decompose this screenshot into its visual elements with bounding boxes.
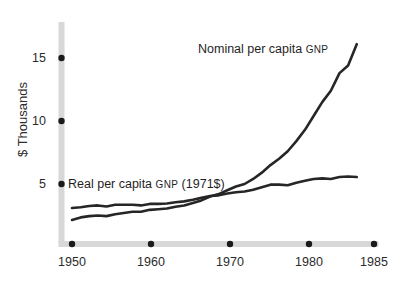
- annotation-nominal-smallcaps: GNP: [306, 44, 329, 55]
- gnp-line-chart: 15 10 5 $ Thousands 1950 1960 1970 1980 …: [0, 0, 406, 284]
- x-tick-label-1950: 1950: [47, 255, 97, 269]
- series-line-nominal-per-capita-gnp: [72, 44, 357, 220]
- annotation-real-prefix: Real per capita: [68, 177, 156, 191]
- annotation-real-smallcaps: GNP: [156, 179, 179, 190]
- x-tick-dot-1950: [69, 241, 75, 247]
- y-tick-dot-10: [58, 118, 64, 124]
- x-axis-band: [59, 241, 379, 247]
- y-tick-dot-5: [58, 181, 64, 187]
- x-tick-label-1980: 1980: [284, 255, 334, 269]
- annotation-nominal-per-capita-gnp: Nominal per capita GNP: [198, 42, 328, 56]
- x-tick-dot-1970: [227, 241, 233, 247]
- annotation-real-per-capita-gnp: Real per capita GNP (1971$): [68, 177, 225, 191]
- x-tick-dot-1960: [148, 241, 154, 247]
- y-tick-dot-15: [58, 55, 64, 61]
- y-axis-title: $ Thousands: [15, 60, 30, 180]
- annotation-real-suffix: (1971$): [178, 177, 225, 191]
- x-tick-label-1960: 1960: [126, 255, 176, 269]
- x-tick-label-1970: 1970: [205, 255, 255, 269]
- x-tick-dot-1985: [371, 241, 377, 247]
- annotation-nominal-prefix: Nominal per capita: [198, 42, 306, 56]
- x-tick-dot-1980: [306, 241, 312, 247]
- x-tick-label-1985: 1985: [349, 255, 399, 269]
